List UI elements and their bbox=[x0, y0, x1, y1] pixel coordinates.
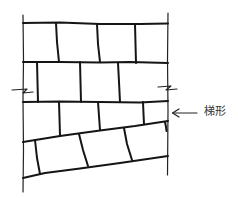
head-joints-course-1 bbox=[56, 23, 136, 63]
sloped-bed-joint-1 bbox=[23, 121, 168, 142]
head-joint bbox=[97, 24, 100, 62]
head-joint bbox=[35, 140, 40, 174]
trapezoid-label: 梯形 bbox=[204, 105, 226, 119]
bed-joint-2 bbox=[23, 62, 168, 63]
head-joint bbox=[98, 102, 100, 130]
head-joint bbox=[37, 62, 38, 102]
right-wall-edge bbox=[168, 13, 169, 175]
left-arrow-icon bbox=[173, 109, 198, 117]
head-joint bbox=[135, 24, 136, 63]
sloped-bed-joint-2 bbox=[23, 156, 168, 178]
head-joint bbox=[165, 122, 167, 131]
head-joint bbox=[59, 102, 60, 136]
head-joint bbox=[80, 62, 81, 102]
left-wall-edge bbox=[23, 15, 24, 192]
bed-joint-3 bbox=[23, 101, 168, 103]
head-joint bbox=[124, 128, 132, 160]
bed-joint-1 bbox=[23, 23, 168, 25]
masonry-wall-diagram bbox=[0, 0, 238, 198]
head-joint bbox=[118, 63, 120, 102]
bed-joints bbox=[23, 23, 168, 179]
head-joint bbox=[56, 23, 59, 62]
head-joints-course-3 bbox=[59, 102, 167, 136]
head-joint bbox=[143, 102, 144, 124]
head-joints-course-2 bbox=[37, 62, 120, 102]
head-joint bbox=[79, 134, 88, 166]
